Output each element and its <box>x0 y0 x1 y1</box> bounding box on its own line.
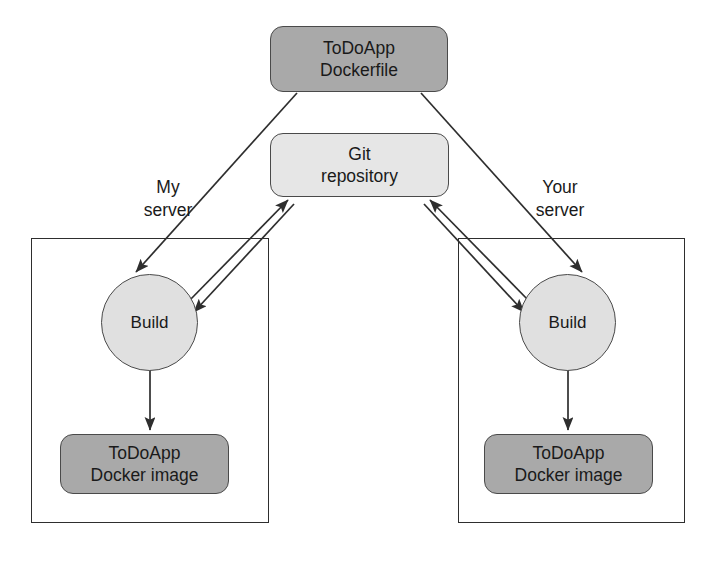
node-build-your-server-label: Build <box>549 312 587 334</box>
node-todoapp-dockerfile-line1: ToDoApp <box>323 37 395 59</box>
node-git-repository-line2: repository <box>321 165 398 187</box>
node-git-repository-line1: Git <box>348 143 370 165</box>
node-build-my-server[interactable]: Build <box>101 274 198 371</box>
node-todoapp-docker-image-your-server-line2: Docker image <box>515 464 623 486</box>
diagram-canvas: My server Your server ToDoApp Dockerfile… <box>0 0 714 569</box>
node-build-your-server[interactable]: Build <box>519 274 616 371</box>
server-label-my-server-line2: server <box>120 199 216 222</box>
server-label-your-server: Your server <box>508 176 612 222</box>
node-todoapp-docker-image-your-server[interactable]: ToDoApp Docker image <box>484 434 653 494</box>
server-label-your-server-line2: server <box>508 199 612 222</box>
node-todoapp-dockerfile-line2: Dockerfile <box>320 59 398 81</box>
server-label-my-server: My server <box>120 176 216 222</box>
node-todoapp-docker-image-your-server-line1: ToDoApp <box>533 442 605 464</box>
node-todoapp-docker-image-my-server-line2: Docker image <box>91 464 199 486</box>
server-label-your-server-line1: Your <box>508 176 612 199</box>
node-git-repository[interactable]: Git repository <box>270 133 449 197</box>
node-todoapp-docker-image-my-server[interactable]: ToDoApp Docker image <box>60 434 229 494</box>
node-todoapp-dockerfile[interactable]: ToDoApp Dockerfile <box>270 26 448 92</box>
server-label-my-server-line1: My <box>120 176 216 199</box>
node-todoapp-docker-image-my-server-line1: ToDoApp <box>109 442 181 464</box>
node-build-my-server-label: Build <box>131 312 169 334</box>
